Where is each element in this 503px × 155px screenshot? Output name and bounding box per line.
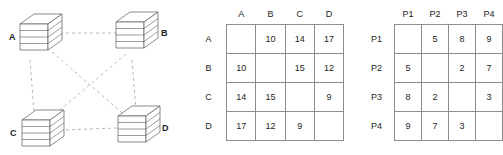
cell-p4-p1: 9 [395, 112, 422, 141]
column-header-p2: P2 [422, 6, 449, 25]
cell-p2-p4: 7 [476, 54, 503, 83]
table-row: P2 5 2 7 [364, 54, 503, 83]
cell-p1-p1 [395, 25, 422, 54]
server-stack-icon-d [118, 106, 160, 142]
network-topology-panel: A B C D [0, 0, 190, 155]
cell-b-c: 15 [285, 54, 314, 83]
row-header-a: A [196, 25, 227, 54]
figure-root: A B C D A B C D A 10 14 [0, 0, 503, 155]
cell-a-c: 14 [285, 25, 314, 54]
column-header-p1: P1 [395, 6, 422, 25]
row-header-p2: P2 [364, 54, 395, 83]
process-distance-matrix: P1 P2 P3 P4 P1 5 8 9 P2 5 2 [364, 6, 503, 141]
cell-p1-p4: 9 [476, 25, 503, 54]
node-label-a: A [9, 33, 16, 42]
row-header-d: D [196, 112, 227, 141]
cell-d-a: 17 [227, 112, 256, 141]
row-header-b: B [196, 54, 227, 83]
column-header-d: D [314, 6, 343, 25]
cell-d-c: 9 [285, 112, 314, 141]
row-header-c: C [196, 83, 227, 112]
cell-d-b: 12 [256, 112, 285, 141]
node-label-b: B [161, 29, 168, 38]
table-row: B 10 15 12 [196, 54, 344, 83]
matrix-corner-cell [364, 6, 395, 25]
cell-a-d: 17 [314, 25, 343, 54]
cell-p4-p3: 3 [449, 112, 476, 141]
node-label-c: C [10, 129, 17, 138]
cell-p3-p3 [449, 83, 476, 112]
cell-d-d [314, 112, 343, 141]
column-header-a: A [227, 6, 256, 25]
cell-p4-p4 [476, 112, 503, 141]
cell-p2-p1: 5 [395, 54, 422, 83]
node-label-d: D [162, 124, 169, 133]
column-header-c: C [285, 6, 314, 25]
node-distance-matrix-panel: A B C D A 10 14 17 B 10 15 [196, 0, 344, 155]
cell-c-d: 9 [314, 83, 343, 112]
process-distance-matrix-panel: P1 P2 P3 P4 P1 5 8 9 P2 5 2 [362, 0, 503, 155]
cell-b-d: 12 [314, 54, 343, 83]
row-header-p1: P1 [364, 25, 395, 54]
column-header-p3: P3 [449, 6, 476, 25]
row-header-p4: P4 [364, 112, 395, 141]
cell-p3-p1: 8 [395, 83, 422, 112]
table-row: A 10 14 17 [196, 25, 344, 54]
cell-a-b: 10 [256, 25, 285, 54]
cell-b-b [256, 54, 285, 83]
node-distance-matrix: A B C D A 10 14 17 B 10 15 [196, 6, 344, 141]
server-stack-icon-a [20, 14, 62, 50]
cell-p3-p2: 2 [422, 83, 449, 112]
table-row: C 14 15 9 [196, 83, 344, 112]
column-header-b: B [256, 6, 285, 25]
cell-p1-p3: 8 [449, 25, 476, 54]
cell-a-a [227, 25, 256, 54]
link-a-c [30, 60, 34, 112]
cell-p2-p3: 2 [449, 54, 476, 83]
table-row: P3 8 2 3 [364, 83, 503, 112]
cell-p2-p2 [422, 54, 449, 83]
cell-c-a: 14 [227, 83, 256, 112]
matrix-header-row: A B C D [196, 6, 344, 25]
table-row: D 17 12 9 [196, 112, 344, 141]
cell-c-b: 15 [256, 83, 285, 112]
link-b-d [132, 60, 136, 110]
cell-c-c [285, 83, 314, 112]
server-stack-icon-c [22, 110, 64, 146]
cell-p3-p4: 3 [476, 83, 503, 112]
link-c-d [60, 128, 118, 130]
table-row: P4 9 7 3 [364, 112, 503, 141]
matrix-corner-cell [196, 6, 227, 25]
server-stack-icon-b [116, 12, 158, 48]
row-header-p3: P3 [364, 83, 395, 112]
cell-b-a: 10 [227, 54, 256, 83]
column-header-p4: P4 [476, 6, 503, 25]
matrix-header-row: P1 P2 P3 P4 [364, 6, 503, 25]
cell-p4-p2: 7 [422, 112, 449, 141]
cell-p1-p2: 5 [422, 25, 449, 54]
table-row: P1 5 8 9 [364, 25, 503, 54]
